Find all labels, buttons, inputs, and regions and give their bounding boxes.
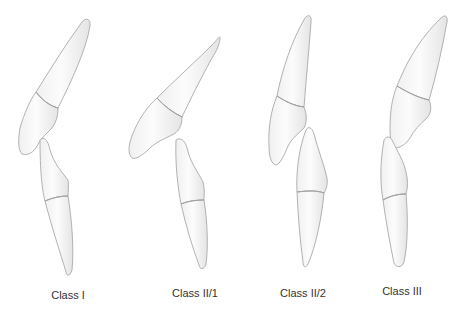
lower-incisor <box>297 128 328 267</box>
panel-class-2-2 <box>269 16 327 267</box>
panel-class-3 <box>381 16 447 267</box>
label-class-2-2: Class II/2 <box>280 287 326 299</box>
lower-incisor <box>381 137 408 267</box>
label-class-2-1: Class II/1 <box>172 287 218 299</box>
upper-incisor <box>19 19 90 154</box>
lower-incisor <box>40 138 73 275</box>
panel-class-1 <box>19 19 90 275</box>
upper-incisor <box>390 16 447 148</box>
panel-class-2-1 <box>129 37 220 269</box>
lower-incisor <box>176 139 208 269</box>
label-class-3: Class III <box>382 285 422 297</box>
label-class-1: Class I <box>51 289 85 301</box>
upper-incisor <box>129 37 220 158</box>
incisor-diagram <box>0 0 459 314</box>
